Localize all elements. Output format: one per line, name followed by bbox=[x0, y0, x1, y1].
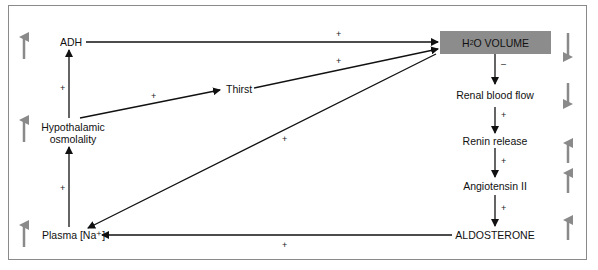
sign-angio-to-aldo: + bbox=[501, 204, 506, 213]
sign-h2o-to-plasma: + bbox=[282, 135, 287, 144]
sign-plasma-to-hypo: + bbox=[60, 184, 65, 193]
node-renal-blood-flow: Renal blood flow bbox=[445, 89, 545, 101]
h2o-rest: O VOLUME bbox=[474, 37, 529, 49]
node-aldosterone: ALDOSTERONE bbox=[445, 229, 545, 241]
edge-h2o-to-plasma bbox=[88, 54, 436, 228]
sign-hypo-to-adh: + bbox=[60, 84, 65, 93]
node-adh: ADH bbox=[60, 36, 82, 48]
node-hypo-line1: Hypothalamic bbox=[38, 121, 108, 133]
sign-adh-to-h2o: + bbox=[336, 30, 341, 39]
node-hypo-line2: osmolality bbox=[38, 133, 108, 145]
node-hypothalamic-osmolality: Hypothalamic osmolality bbox=[38, 121, 108, 145]
edge-thirst-to-h2o bbox=[254, 49, 438, 88]
node-h2o-volume: H2O VOLUME bbox=[440, 31, 551, 54]
node-thirst: Thirst bbox=[226, 83, 252, 95]
sign-thirst-to-h2o: + bbox=[336, 57, 341, 66]
node-plasma-na: Plasma [Na⁺] bbox=[42, 229, 105, 241]
sign-renal-to-renin: + bbox=[501, 111, 506, 120]
h2o-h: H bbox=[462, 37, 470, 49]
sign-renin-to-angio: + bbox=[501, 157, 506, 166]
node-renin-release: Renin release bbox=[445, 135, 545, 147]
sign-h2o-to-renal: – bbox=[501, 60, 506, 69]
sign-hypo-to-thirst: + bbox=[151, 92, 156, 101]
sign-aldo-to-plasma: + bbox=[282, 241, 287, 250]
edge-hypo-to-thirst bbox=[80, 90, 220, 118]
node-angiotensin-ii: Angiotensin II bbox=[445, 180, 545, 192]
